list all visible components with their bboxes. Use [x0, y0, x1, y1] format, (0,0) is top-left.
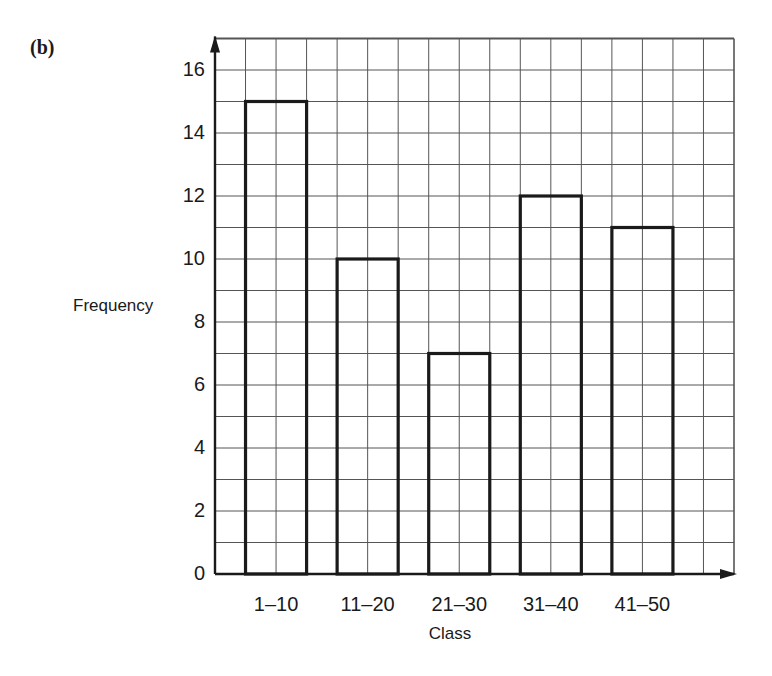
y-tick-label: 6: [165, 374, 205, 394]
y-axis-label: Frequency: [73, 296, 153, 316]
x-tick-label: 31–40: [511, 593, 591, 616]
y-tick-label: 4: [165, 437, 205, 457]
y-tick-label: 10: [165, 248, 205, 268]
bar-chart: [0, 0, 772, 676]
x-tick-label: 21–30: [419, 593, 499, 616]
x-tick-label: 11–20: [328, 593, 408, 616]
y-tick-label: 12: [165, 185, 205, 205]
axes: [210, 36, 737, 580]
y-tick-label: 14: [165, 122, 205, 142]
x-tick-label: 1–10: [236, 593, 316, 616]
x-tick-label: 41–50: [602, 593, 682, 616]
y-tick-label: 0: [165, 563, 205, 583]
x-axis-label: Class: [420, 624, 480, 644]
y-tick-label: 8: [165, 311, 205, 331]
y-tick-label: 16: [165, 59, 205, 79]
grid-lines: [215, 39, 734, 575]
y-tick-label: 2: [165, 500, 205, 520]
